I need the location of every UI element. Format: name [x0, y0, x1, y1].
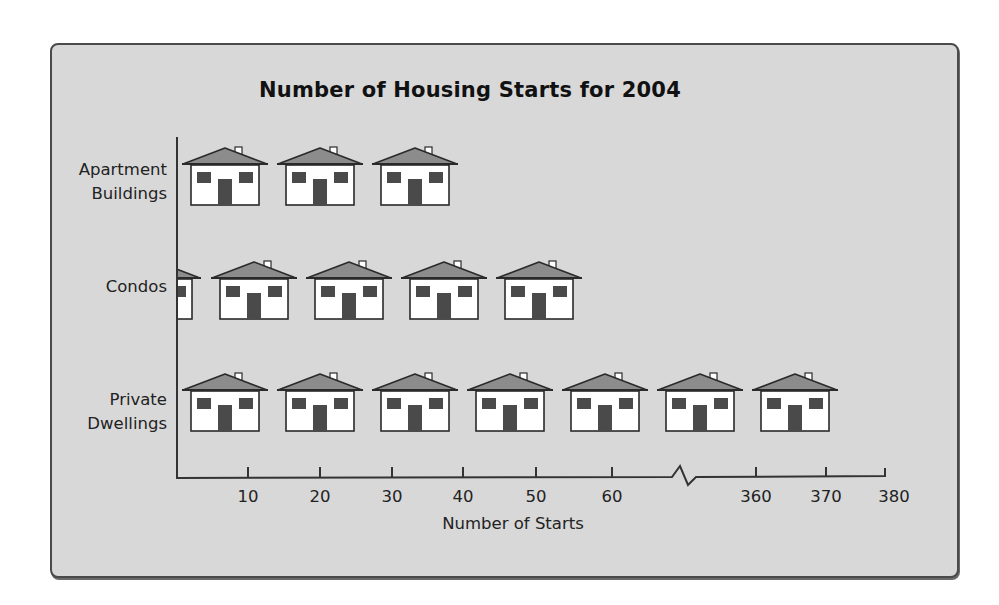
house-icon: [371, 143, 459, 213]
house-icon: [305, 257, 393, 327]
x-axis-label: Number of Starts: [442, 514, 584, 533]
house-icon: [656, 369, 744, 439]
x-tick-label: 370: [810, 487, 842, 506]
x-tick-label: 360: [740, 487, 772, 506]
x-axis-line: [176, 466, 885, 485]
x-tick-label: 380: [878, 487, 910, 506]
pictograph-row: [178, 257, 898, 337]
house-icon: [561, 369, 649, 439]
house-icon: [276, 143, 364, 213]
house-icon: [181, 369, 269, 439]
x-tick-label: 10: [238, 487, 259, 506]
x-axis-ticks: [248, 467, 826, 477]
x-tick-label: 20: [310, 487, 331, 506]
house-icon: [210, 257, 298, 327]
house-icon: [371, 369, 459, 439]
x-tick-label: 60: [602, 487, 623, 506]
pictograph-row: [178, 143, 898, 223]
house-icon: [400, 257, 488, 327]
house-icon: [181, 143, 269, 213]
x-tick-label: 30: [382, 487, 403, 506]
x-tick-label: 50: [526, 487, 547, 506]
x-tick-label: 40: [453, 487, 474, 506]
house-icon: [466, 369, 554, 439]
pictograph-row: [178, 369, 898, 449]
house-icon: [178, 257, 202, 327]
house-icon: [751, 369, 839, 439]
house-icon: [276, 369, 364, 439]
house-icon: [495, 257, 583, 327]
